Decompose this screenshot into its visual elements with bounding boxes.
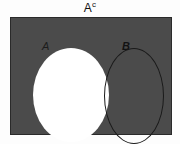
set-a-circle — [33, 48, 109, 142]
set-a-label: A — [42, 40, 49, 52]
set-b-circle — [104, 48, 164, 144]
diagram-title: Ac — [0, 1, 180, 15]
diagram-title-superscript: c — [92, 0, 96, 9]
venn-diagram-figure: Ac A B — [0, 0, 180, 144]
diagram-title-base: A — [84, 1, 92, 15]
set-b-label: B — [122, 40, 130, 52]
universal-set-rectangle — [10, 17, 172, 135]
